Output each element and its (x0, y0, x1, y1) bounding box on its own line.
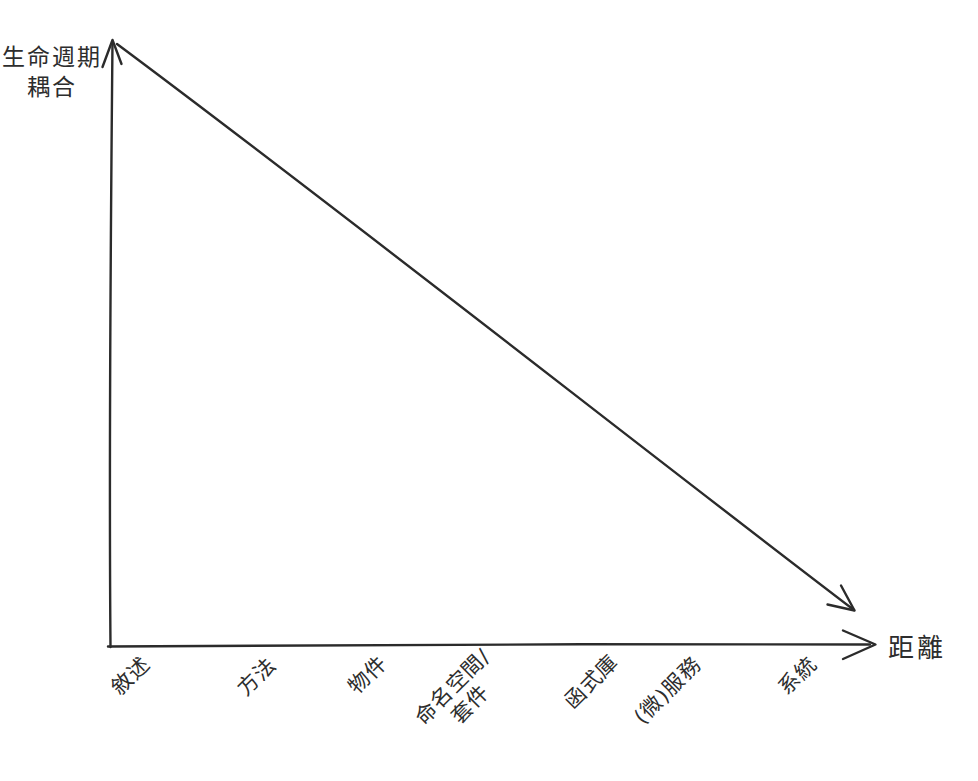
y-axis-title: 生命週期 耦合 (2, 43, 102, 103)
trend-line (117, 44, 854, 610)
y-axis-line (110, 42, 113, 647)
x-axis-title: 距離 (888, 627, 946, 664)
x-axis-line (108, 644, 870, 646)
chart-figure: 生命週期 耦合 距離 敘述 方法 物件 命名空間/ 套件 函式庫 (微)服務 系… (0, 0, 978, 781)
